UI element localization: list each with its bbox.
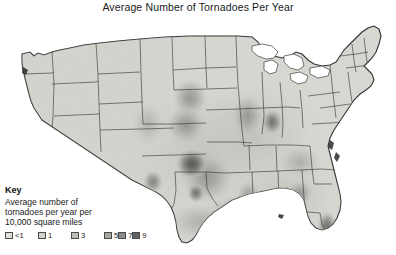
legend-label-9: 9: [142, 232, 146, 240]
legend-description-line-2: tornadoes per year per: [5, 207, 113, 217]
legend-description-line-3: 10,000 square miles: [5, 217, 113, 227]
map-legend: Key Average number of tornadoes per year…: [5, 185, 113, 241]
legend-item-lt1: <1: [5, 231, 38, 241]
legend-item-5: 5: [104, 231, 118, 241]
legend-swatch-lt1: [5, 232, 13, 239]
legend-label-3: 3: [81, 232, 85, 240]
legend-swatch-1: [38, 232, 46, 239]
legend-label-1: 1: [48, 232, 52, 240]
legend-swatch-3: [71, 232, 79, 239]
legend-swatch-7: [118, 232, 126, 239]
legend-item-7: 7: [118, 231, 132, 241]
legend-heading: Key: [5, 185, 113, 196]
legend-item-1: 1: [38, 231, 71, 241]
legend-swatch-5: [104, 232, 112, 239]
legend-description: Average number of tornadoes per year per…: [5, 197, 113, 228]
legend-item-9: 9: [132, 231, 146, 241]
tornado-map-figure: Average Number of Tornadoes Per Year: [0, 0, 396, 255]
legend-description-line-1: Average number of: [5, 197, 113, 207]
legend-label-lt1: <1: [15, 232, 24, 240]
legend-swatch-grid: <1 1 3 5 7 9: [5, 231, 113, 241]
legend-swatch-9: [132, 232, 140, 239]
legend-item-3: 3: [71, 231, 104, 241]
